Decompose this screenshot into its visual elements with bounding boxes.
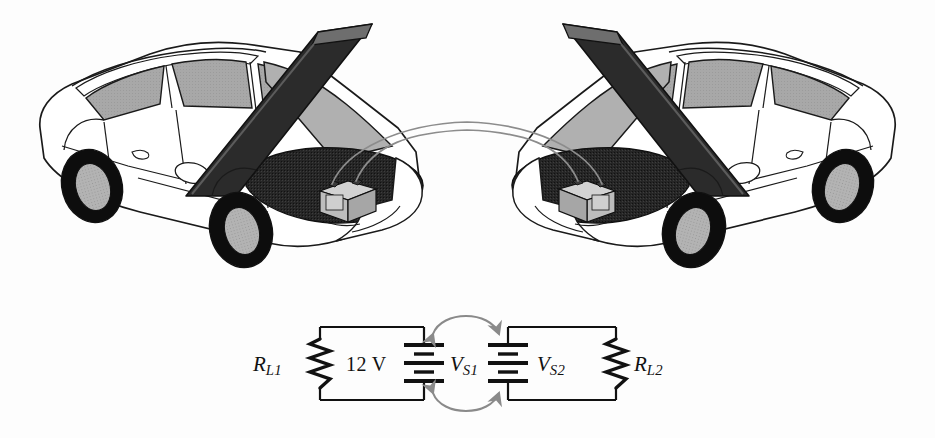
label-vs1: VS1 xyxy=(450,352,478,379)
left-battery-label xyxy=(326,195,343,210)
label-rl1-main: R xyxy=(253,352,266,376)
label-rl2-main: R xyxy=(634,352,647,376)
left-car-rear-side-window xyxy=(172,60,252,108)
label-rl1: RL1 xyxy=(253,352,282,379)
label-12v: 12 V xyxy=(346,353,387,376)
label-rl1-sub: L1 xyxy=(266,362,282,378)
right-battery-label xyxy=(592,195,609,210)
label-rl2: RL2 xyxy=(634,352,663,379)
figure-root: RL1 12 V VS1 VS2 RL2 xyxy=(0,0,935,438)
label-rl2-sub: L2 xyxy=(647,362,663,378)
label-vs1-main: V xyxy=(450,352,463,376)
label-vs2: VS2 xyxy=(537,352,565,379)
label-vs1-sub: S1 xyxy=(463,362,478,378)
right-car-rear-side-window xyxy=(683,60,763,108)
label-vs2-main: V xyxy=(537,352,550,376)
label-vs2-sub: S2 xyxy=(550,362,565,378)
